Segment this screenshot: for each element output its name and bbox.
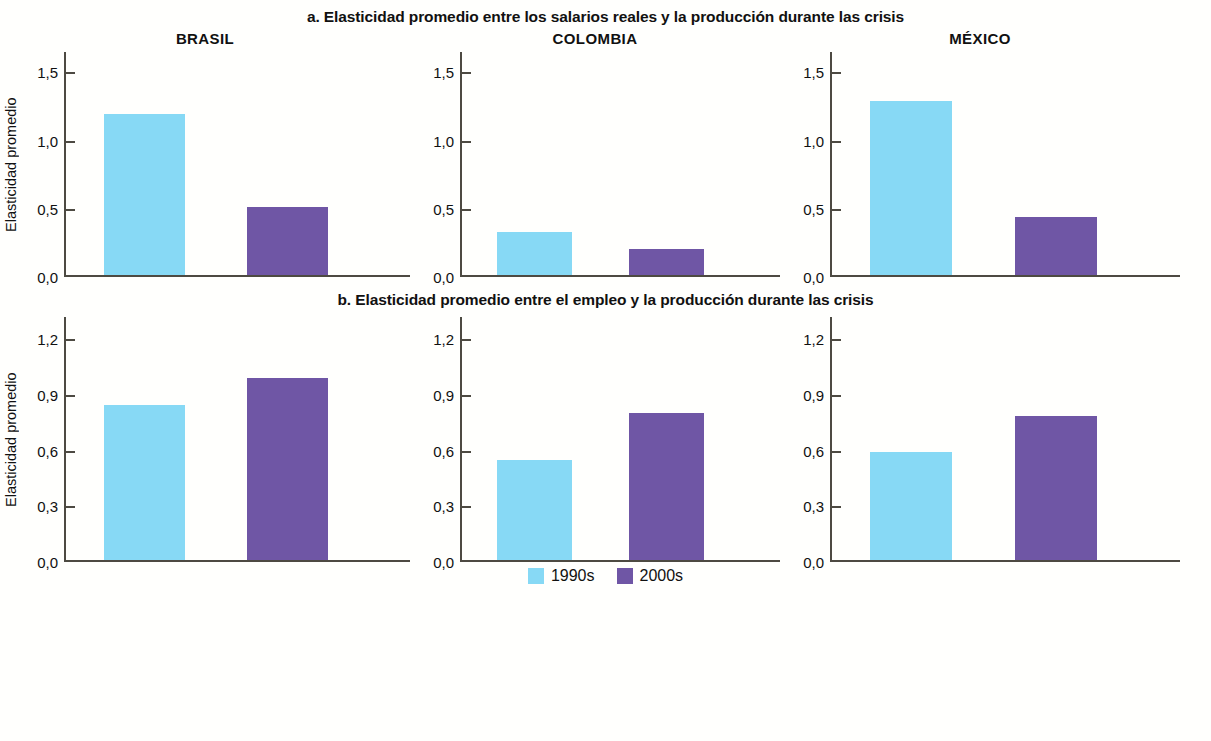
bar-brasil-1990s: [104, 114, 185, 275]
y-tick-label: 1,0: [37, 132, 58, 149]
y-tick-label: 1,0: [803, 132, 824, 149]
y-axis-tick-labels: 0,00,30,60,91,2: [418, 317, 460, 562]
bar-colombia-2000s: [629, 249, 704, 275]
legend-swatch-1990s: [528, 568, 544, 584]
y-tick-label: 0,9: [803, 386, 824, 403]
chart-legend: 1990s2000s: [0, 568, 1211, 584]
y-tick-label: 0,0: [803, 554, 824, 571]
y-tick-label: 1,5: [433, 64, 454, 81]
y-tick-label: 0,5: [433, 200, 454, 217]
panel-title-brasil: BRASIL: [0, 26, 410, 52]
plot-area: [64, 52, 410, 277]
panel-title-colombia: COLOMBIA: [410, 26, 780, 52]
section-a-title: a. Elasticidad promedio entre los salari…: [0, 8, 1211, 26]
panel-title-méxico: MÉXICO: [780, 26, 1180, 52]
plot-area: [64, 317, 410, 562]
y-tick-label: 1,2: [37, 331, 58, 348]
y-tick-label: 0,9: [37, 386, 58, 403]
panel-title-méxico: [780, 309, 1180, 317]
plot-wrap: Elasticidad promedio0,00,30,60,91,2: [410, 317, 780, 562]
panel-a-brasil: BRASILElasticidad promedio0,00,51,01,5: [0, 26, 410, 277]
bar-méxico-1990s: [870, 452, 952, 560]
bar-colombia-1990s: [497, 460, 572, 560]
figure-root: a. Elasticidad promedio entre los salari…: [0, 0, 1211, 741]
bar-méxico-2000s: [1015, 416, 1097, 560]
plot-wrap: Elasticidad promedio0,00,30,60,91,2: [780, 317, 1180, 562]
y-axis-title: Elasticidad promedio: [0, 52, 22, 277]
legend-swatch-2000s: [617, 568, 633, 584]
panel-b-brasil: Elasticidad promedio0,00,30,60,91,2: [0, 309, 410, 562]
bar-group: [66, 317, 410, 560]
y-tick-label: 0,3: [803, 498, 824, 515]
y-tick-label: 1,5: [37, 64, 58, 81]
section-a-panels: BRASILElasticidad promedio0,00,51,01,5CO…: [0, 26, 1211, 277]
y-tick-label: 1,5: [803, 64, 824, 81]
y-tick-label: 0,5: [803, 200, 824, 217]
section-b-panels: Elasticidad promedio0,00,30,60,91,2 Elas…: [0, 309, 1211, 562]
y-tick-label: 0,3: [433, 498, 454, 515]
plot-area: [830, 52, 1180, 277]
y-axis-tick-labels: 0,00,51,01,5: [788, 52, 830, 277]
plot-wrap: Elasticidad promedio0,00,51,01,5: [0, 52, 410, 277]
chart-section-a: a. Elasticidad promedio entre los salari…: [0, 0, 1211, 277]
y-tick-label: 1,2: [433, 331, 454, 348]
panel-title-colombia: [410, 309, 780, 317]
y-tick-label: 0,6: [433, 442, 454, 459]
y-tick-label: 0,0: [433, 554, 454, 571]
bar-brasil-2000s: [247, 378, 328, 560]
bar-méxico-1990s: [870, 101, 952, 275]
legend-label-2000s: 2000s: [640, 568, 684, 584]
bar-colombia-1990s: [497, 232, 572, 275]
chart-section-b: b. Elasticidad promedio entre el empleo …: [0, 277, 1211, 562]
panel-b-méxico: Elasticidad promedio0,00,30,60,91,2: [780, 309, 1180, 562]
plot-wrap: Elasticidad promedio0,00,51,01,5: [780, 52, 1180, 277]
y-tick-label: 0,3: [37, 498, 58, 515]
bar-group: [462, 317, 780, 560]
y-tick-label: 0,6: [37, 442, 58, 459]
plot-area: [460, 52, 780, 277]
legend-label-1990s: 1990s: [551, 568, 595, 584]
plot-wrap: Elasticidad promedio0,00,51,01,5: [410, 52, 780, 277]
bar-group: [462, 52, 780, 275]
y-axis-tick-labels: 0,00,30,60,91,2: [788, 317, 830, 562]
section-b-title: b. Elasticidad promedio entre el empleo …: [0, 291, 1211, 309]
y-tick-label: 0,0: [37, 554, 58, 571]
panel-a-méxico: MÉXICOElasticidad promedio0,00,51,01,5: [780, 26, 1180, 277]
y-axis-title: Elasticidad promedio: [0, 317, 22, 562]
plot-area: [460, 317, 780, 562]
legend-item-2000s: 2000s: [617, 568, 684, 584]
bar-group: [832, 317, 1180, 560]
x-axis-line: [64, 560, 410, 562]
y-axis-tick-labels: 0,00,30,60,91,2: [22, 317, 64, 562]
y-tick-label: 1,0: [433, 132, 454, 149]
panel-title-brasil: [0, 309, 410, 317]
bar-brasil-1990s: [104, 405, 185, 560]
bar-brasil-2000s: [247, 207, 328, 275]
plot-area: [830, 317, 1180, 562]
legend-item-1990s: 1990s: [528, 568, 595, 584]
bar-méxico-2000s: [1015, 217, 1097, 275]
y-tick-label: 1,2: [803, 331, 824, 348]
bar-group: [66, 52, 410, 275]
y-tick-label: 0,6: [803, 442, 824, 459]
plot-wrap: Elasticidad promedio0,00,30,60,91,2: [0, 317, 410, 562]
y-axis-tick-labels: 0,00,51,01,5: [22, 52, 64, 277]
panel-a-colombia: COLOMBIAElasticidad promedio0,00,51,01,5: [410, 26, 780, 277]
y-tick-label: 0,9: [433, 386, 454, 403]
x-axis-line: [460, 560, 780, 562]
x-axis-line: [830, 560, 1180, 562]
y-tick-label: 0,5: [37, 200, 58, 217]
y-axis-tick-labels: 0,00,51,01,5: [418, 52, 460, 277]
bar-colombia-2000s: [629, 413, 704, 560]
panel-b-colombia: Elasticidad promedio0,00,30,60,91,2: [410, 309, 780, 562]
bar-group: [832, 52, 1180, 275]
